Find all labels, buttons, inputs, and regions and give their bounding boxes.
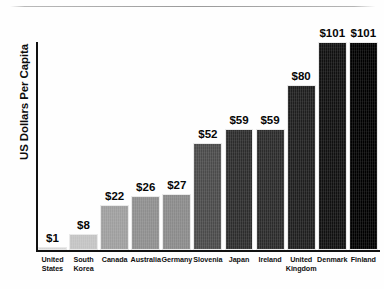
bar-value-label: $8 [77,219,90,231]
bar [38,247,67,250]
category-label-line: Australia [128,256,163,265]
bar [131,196,160,250]
category-label-line: Germany [159,256,194,265]
bar-group: $26 [131,20,160,250]
bar [225,129,254,251]
bar-group: $8 [69,20,98,250]
category-label-line: Japan [222,256,257,265]
category-label-line: Finland [346,256,381,265]
bar-value-label: $59 [260,114,279,126]
bar [256,129,285,251]
bar [162,194,191,250]
category-label-line: States [35,265,70,274]
bar-group: $59 [256,20,285,250]
bar-value-label: $59 [229,114,248,126]
category-label: Finland [346,256,381,265]
category-label-line: Canada [97,256,132,265]
bar-value-label: $1 [46,232,59,244]
category-label: Denmark [315,256,350,265]
category-label-line: Korea [66,265,101,274]
bar-value-label: $22 [105,190,124,202]
category-label: SouthKorea [66,256,101,273]
category-label: Canada [97,256,132,265]
bar-group: $27 [162,20,191,250]
bar [69,234,98,250]
bar [318,42,347,250]
category-label-line: Ireland [253,256,288,265]
bar-value-label: $52 [198,128,217,140]
bar-value-label: $101 [351,27,377,39]
bar-group: $52 [193,20,222,250]
category-label: Germany [159,256,194,265]
bar-value-label: $101 [319,27,345,39]
category-label-line: Denmark [315,256,350,265]
x-axis-line [36,250,380,252]
bar-value-label: $26 [136,181,155,193]
bar-group: $22 [100,20,129,250]
bar-group: $80 [287,20,316,250]
category-label: Ireland [253,256,288,265]
category-label-line: Slovenia [190,256,225,265]
bar-group: $101 [349,20,378,250]
category-axis: UnitedStatesSouthKoreaCanadaAustraliaGer… [38,256,380,286]
bar-chart: US Dollars Per Capita $1$8$22$26$27$52$5… [0,0,384,289]
category-label: UnitedKingdom [284,256,319,273]
category-label: Australia [128,256,163,265]
bar [287,85,316,250]
bar-group: $1 [38,20,67,250]
top-divider-rule [10,6,376,7]
plot-area: $1$8$22$26$27$52$59$59$80$101$101 [38,20,380,250]
category-label: UnitedStates [35,256,70,273]
category-label: Slovenia [190,256,225,265]
bar [349,42,378,250]
bar-value-label: $80 [292,70,311,82]
bar [100,205,129,250]
bar [193,143,222,250]
y-axis-label: US Dollars Per Capita [18,32,30,172]
bar-group: $101 [318,20,347,250]
bar-group: $59 [225,20,254,250]
category-label-line: Kingdom [284,265,319,274]
bar-value-label: $27 [167,179,186,191]
category-label: Japan [222,256,257,265]
